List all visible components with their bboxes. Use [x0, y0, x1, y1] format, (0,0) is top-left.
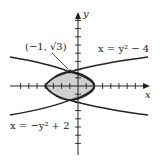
diagram-canvas: (−1, √3) x = y² − 4 x = −y² + 2 x y — [0, 0, 162, 161]
intersection-point — [68, 70, 72, 74]
curve-label-right: x = y² − 4 — [98, 43, 149, 54]
curve-label-left: x = −y² + 2 — [10, 120, 70, 131]
x-axis-label: x — [145, 89, 151, 100]
intersection-label: (−1, √3) — [25, 41, 67, 52]
y-axis-arrow — [75, 12, 81, 19]
y-axis-label: y — [82, 8, 89, 19]
